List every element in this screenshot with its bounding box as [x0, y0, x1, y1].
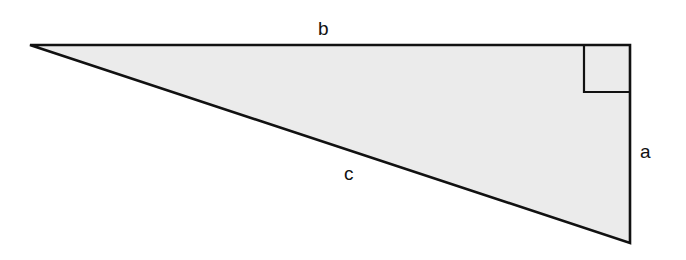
label-a: a [640, 141, 651, 162]
triangle-shape [30, 45, 630, 243]
right-triangle-diagram: b a c [0, 0, 686, 260]
label-b: b [318, 18, 329, 39]
label-c: c [344, 163, 354, 184]
